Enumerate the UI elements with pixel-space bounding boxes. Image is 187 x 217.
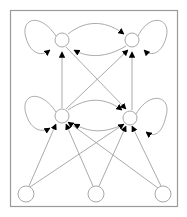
graph-diagram bbox=[0, 0, 187, 217]
node-bottom-middle bbox=[88, 186, 104, 202]
node-top-left bbox=[55, 33, 69, 47]
node-mid-left bbox=[55, 109, 69, 123]
node-bottom-right bbox=[155, 186, 171, 202]
node-bottom-left bbox=[18, 186, 34, 202]
node-top-right bbox=[125, 33, 139, 47]
node-mid-right bbox=[123, 111, 137, 125]
diagram-frame bbox=[11, 11, 178, 207]
